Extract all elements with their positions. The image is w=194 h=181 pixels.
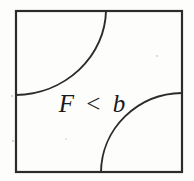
region-label: F < b (58, 90, 125, 117)
label-rhs: b (113, 90, 126, 117)
geometry-diagram: F < b (0, 0, 194, 181)
scan-speck (12, 140, 14, 142)
scan-speck (156, 55, 158, 57)
label-lhs: F (58, 90, 75, 117)
figure-container: F < b (0, 0, 194, 181)
scan-speck (65, 138, 67, 140)
scan-speck (11, 95, 13, 97)
label-operator: < (86, 90, 100, 117)
